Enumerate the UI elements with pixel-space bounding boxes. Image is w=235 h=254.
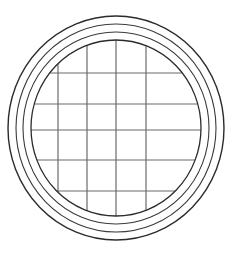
round-window-illustration <box>0 0 235 254</box>
drawing-canvas <box>0 0 235 254</box>
